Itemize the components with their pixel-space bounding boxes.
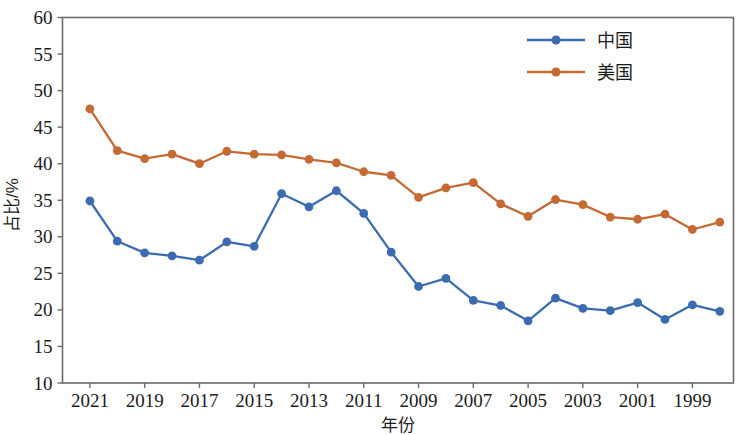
x-tick-label: 1999: [673, 390, 711, 411]
data-point-marker: [661, 210, 670, 219]
data-point-marker: [359, 167, 368, 176]
data-point-marker: [578, 200, 587, 209]
data-point-marker: [359, 209, 368, 218]
data-point-marker: [496, 200, 505, 209]
x-tick-label: 2009: [400, 390, 438, 411]
x-tick-label: 2019: [126, 390, 164, 411]
y-tick-label: 25: [34, 263, 53, 284]
x-tick-label: 2005: [509, 390, 547, 411]
data-point-marker: [387, 171, 396, 180]
data-point-marker: [332, 186, 341, 195]
data-point-marker: [688, 225, 697, 234]
data-point-marker: [113, 237, 122, 246]
data-point-marker: [387, 248, 396, 257]
data-point-marker: [442, 274, 451, 283]
x-axis-ticks: 2021201920172015201320112009200720052003…: [71, 383, 712, 411]
data-point-marker: [168, 150, 177, 159]
data-point-marker: [414, 193, 423, 202]
x-axis-title: 年份: [381, 416, 415, 435]
series-1: [85, 186, 724, 325]
data-point-marker: [524, 212, 533, 221]
data-point-marker: [85, 197, 94, 206]
x-tick-label: 2003: [564, 390, 602, 411]
y-tick-label: 40: [34, 153, 53, 174]
x-tick-label: 2021: [71, 390, 109, 411]
data-point-marker: [551, 195, 560, 204]
data-point-marker: [85, 104, 94, 113]
data-point-marker: [633, 298, 642, 307]
data-point-marker: [715, 218, 724, 227]
y-axis-ticks: 6055504540353025201510: [34, 7, 63, 394]
series-line-path: [90, 109, 720, 230]
data-point-marker: [688, 300, 697, 309]
line-chart: 6055504540353025201510 20212019201720152…: [0, 0, 739, 435]
data-point-marker: [195, 159, 204, 168]
data-point-marker: [250, 150, 259, 159]
legend-marker-icon: [551, 35, 560, 44]
y-tick-label: 55: [34, 44, 53, 65]
y-tick-label: 15: [34, 336, 53, 357]
x-tick-label: 2007: [454, 390, 492, 411]
y-tick-label: 10: [34, 373, 53, 394]
data-point-marker: [195, 256, 204, 265]
data-point-marker: [606, 306, 615, 315]
x-tick-label: 2015: [235, 390, 273, 411]
y-tick-label: 45: [34, 117, 53, 138]
data-point-marker: [524, 316, 533, 325]
data-point-marker: [168, 251, 177, 260]
legend-label: 美国: [597, 63, 633, 83]
data-point-marker: [442, 183, 451, 192]
x-tick-label: 2011: [345, 390, 382, 411]
chart-legend: 中国美国: [527, 31, 633, 83]
data-point-marker: [469, 178, 478, 187]
series-group: [85, 104, 724, 325]
y-tick-label: 60: [34, 7, 53, 28]
data-point-marker: [222, 238, 231, 247]
data-point-marker: [551, 294, 560, 303]
data-point-marker: [140, 154, 149, 163]
data-point-marker: [250, 242, 259, 251]
y-tick-label: 30: [34, 226, 53, 247]
data-point-marker: [661, 315, 670, 324]
data-point-marker: [113, 146, 122, 155]
data-point-marker: [277, 189, 286, 198]
x-tick-label: 2017: [180, 390, 218, 411]
data-point-marker: [578, 304, 587, 313]
series-2: [85, 104, 724, 233]
data-point-marker: [305, 155, 314, 164]
data-point-marker: [414, 282, 423, 291]
data-point-marker: [305, 202, 314, 211]
chart-container: 6055504540353025201510 20212019201720152…: [0, 0, 739, 435]
data-point-marker: [222, 147, 231, 156]
data-point-marker: [606, 213, 615, 222]
x-tick-label: 2001: [619, 390, 657, 411]
series-line-path: [90, 191, 720, 321]
y-tick-label: 50: [34, 80, 53, 101]
data-point-marker: [469, 296, 478, 305]
legend-label: 中国: [597, 31, 633, 51]
data-point-marker: [332, 159, 341, 168]
y-tick-label: 20: [34, 299, 53, 320]
data-point-marker: [496, 301, 505, 310]
y-axis-title: 占比/%: [3, 178, 22, 232]
legend-marker-icon: [551, 67, 560, 76]
data-point-marker: [633, 215, 642, 224]
data-point-marker: [715, 307, 724, 316]
y-tick-label: 35: [34, 190, 53, 211]
x-tick-label: 2013: [290, 390, 328, 411]
data-point-marker: [140, 248, 149, 257]
data-point-marker: [277, 151, 286, 160]
